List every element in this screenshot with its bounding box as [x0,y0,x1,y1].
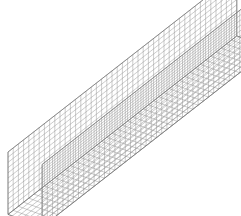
wireframe-figure [0,0,241,216]
wireframe-mesh-canvas [0,0,241,216]
